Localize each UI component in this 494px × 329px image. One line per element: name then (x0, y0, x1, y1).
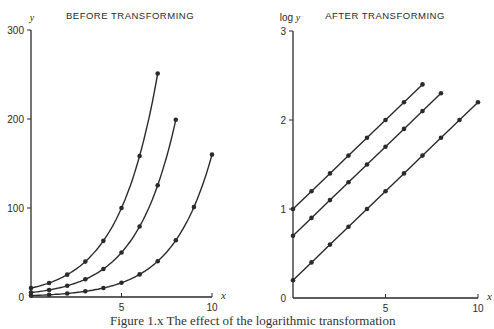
data-point (383, 189, 388, 194)
x-axis-label: x (220, 289, 226, 301)
data-point (119, 280, 124, 285)
figure-caption: Figure 1.x The effect of the logarithmic… (110, 313, 395, 329)
data-point (83, 289, 88, 294)
series-series-b (291, 91, 444, 238)
data-point (328, 242, 333, 247)
y-axis-label: y (29, 12, 35, 23)
series-line (31, 155, 212, 296)
series-series-a (291, 82, 425, 211)
data-point (457, 118, 462, 123)
data-point (192, 205, 197, 210)
y-tick-label: 300 (7, 25, 24, 36)
series-line (31, 73, 158, 288)
data-point (137, 272, 142, 277)
data-point (29, 286, 34, 291)
series-series-c (291, 100, 481, 283)
data-point (155, 183, 160, 188)
series-series-a (29, 71, 160, 290)
data-point (83, 259, 88, 264)
data-point (155, 259, 160, 264)
series-series-b (29, 118, 178, 295)
data-point (309, 216, 314, 221)
data-point (365, 207, 370, 212)
data-point (83, 277, 88, 282)
data-point (174, 238, 179, 243)
data-point (210, 152, 215, 157)
data-point (137, 224, 142, 229)
data-point (402, 127, 407, 132)
data-point (47, 281, 52, 286)
data-point (402, 100, 407, 105)
x-tick-label: 5 (119, 302, 125, 313)
data-point (476, 100, 481, 105)
data-point (65, 283, 70, 288)
data-point (137, 154, 142, 159)
y-tick-label: 3 (280, 26, 286, 37)
data-point (101, 239, 106, 244)
data-point (365, 136, 370, 141)
data-point (65, 272, 70, 277)
data-point (439, 91, 444, 96)
data-point (383, 144, 388, 149)
data-point (174, 118, 179, 123)
chart-title: BEFORE TRANSFORMING (66, 10, 194, 21)
data-point (439, 136, 444, 141)
data-point (291, 233, 296, 238)
data-point (328, 198, 333, 203)
data-point (346, 153, 351, 158)
chart-before-transforming: BEFORE TRANSFORMINGyx0100200300510 (7, 10, 226, 313)
chart-after-transforming: AFTER TRANSFORMINGlog yx0123510 (280, 10, 492, 314)
data-point (309, 260, 314, 265)
y-tick-label: 2 (280, 115, 286, 126)
data-point (47, 292, 52, 297)
data-point (402, 171, 407, 176)
data-point (365, 162, 370, 167)
y-tick-label: 0 (280, 293, 286, 304)
data-point (29, 293, 34, 298)
series-series-c (29, 152, 215, 298)
x-axis-label: x (486, 290, 492, 302)
x-tick-label: 10 (472, 303, 484, 314)
data-point (383, 118, 388, 123)
data-point (47, 288, 52, 293)
data-point (420, 109, 425, 114)
data-point (420, 82, 425, 87)
data-point (291, 278, 296, 283)
data-point (328, 171, 333, 176)
data-point (101, 267, 106, 272)
chart-title: AFTER TRANSFORMING (325, 10, 445, 21)
data-point (155, 71, 160, 76)
y-axis-label: log y (280, 12, 301, 23)
data-point (291, 207, 296, 212)
y-tick-label: 200 (7, 114, 24, 125)
data-point (309, 189, 314, 194)
y-tick-label: 1 (280, 204, 286, 215)
data-point (119, 206, 124, 211)
y-tick-label: 100 (7, 203, 24, 214)
x-tick-label: 10 (206, 302, 218, 313)
data-point (420, 153, 425, 158)
y-tick-label: 0 (18, 292, 24, 303)
data-point (346, 225, 351, 230)
data-point (119, 250, 124, 255)
data-point (65, 291, 70, 296)
data-point (101, 286, 106, 291)
data-point (346, 180, 351, 185)
